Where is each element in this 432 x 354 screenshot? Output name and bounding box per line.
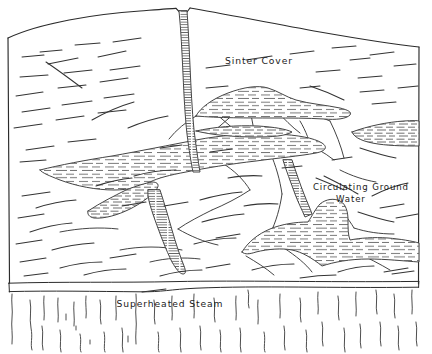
water-hatch-sliver <box>196 126 292 137</box>
water-hatch-upper <box>196 87 351 120</box>
water-hatch-right-upper <box>352 121 419 146</box>
label-circulating-ground-line2: Water <box>336 194 366 204</box>
diagram-canvas: Sinter Cover Circulating Ground Water Su… <box>0 0 432 354</box>
rock-steam-boundary <box>9 281 419 292</box>
geothermal-cross-section-figure: Sinter Cover Circulating Ground Water Su… <box>0 0 432 354</box>
label-sinter-cover: Sinter Cover <box>225 55 293 66</box>
label-circulating-ground-line1: Circulating Ground <box>313 182 409 192</box>
circulating-ground-water-bodies <box>40 87 419 266</box>
water-hatch-right-lower <box>242 199 419 266</box>
label-superheated-steam: Superheated Steam <box>117 298 224 309</box>
conduit-hatch-right-arm <box>283 160 312 217</box>
